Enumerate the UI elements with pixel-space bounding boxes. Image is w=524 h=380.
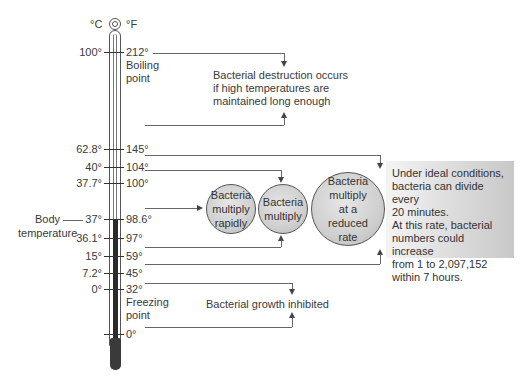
circle-text: Bacteria [263, 195, 303, 209]
arrow-down-icon [281, 61, 287, 67]
connector-line [145, 247, 281, 248]
arrow-down-icon [289, 289, 295, 295]
tick-0c [104, 289, 124, 290]
connector-line [145, 264, 380, 265]
connector-line [284, 117, 285, 125]
connector-line [281, 240, 282, 247]
fahrenheit-label: 0° [126, 328, 137, 341]
arrow-down-icon [278, 177, 284, 183]
circle-multiply-rapidly: Bacteria multiply rapidly [206, 184, 256, 234]
destruction-text: if high temperatures are [213, 82, 329, 95]
tick-0f [104, 334, 124, 335]
tick-7c [104, 273, 124, 274]
tick-37-7c [104, 183, 124, 184]
tick-15c [104, 256, 124, 257]
info-text: numbers could increase [392, 232, 508, 258]
info-text: within 7 hours. [392, 271, 508, 284]
info-text: bacteria can divide every [392, 180, 508, 206]
circle-text: rate [328, 230, 368, 244]
info-text: At this rate, bacterial [392, 219, 508, 232]
connector-line [145, 327, 292, 328]
circle-text: Bacteria [211, 188, 251, 202]
body-temp-connector [145, 208, 198, 209]
circle-text: multiply [211, 202, 251, 216]
connector-line [292, 317, 293, 327]
celsius-label: 15° [55, 250, 102, 263]
fahrenheit-label: 100° [126, 177, 149, 190]
connector-line [145, 283, 292, 284]
circle-multiply-reduced-rate: Bacteria multiply at a reduced rate [311, 172, 385, 246]
circle-multiply: Bacteria multiply [258, 184, 308, 234]
thermometer-bulb [110, 338, 121, 370]
info-box: Under ideal conditions, bacteria can div… [386, 161, 514, 258]
tick-62c [104, 149, 124, 150]
fahrenheit-label: 32° [126, 283, 143, 296]
info-text: 20 minutes. [392, 206, 508, 219]
connector-line [145, 155, 380, 156]
fahrenheit-label: 104° [126, 161, 149, 174]
tick-37c [104, 219, 124, 220]
circle-text: multiply [263, 209, 303, 223]
celsius-label: 40° [55, 161, 102, 174]
destruction-text: maintained long enough [213, 95, 330, 108]
tick-36c [104, 238, 124, 239]
freezing-point-label: point [126, 309, 150, 322]
celsius-label: 62.8° [55, 143, 102, 156]
arrow-right-icon [197, 205, 203, 211]
body-temperature-label: temperature [18, 227, 77, 240]
arrow-down-icon [377, 163, 383, 169]
connector-line [153, 53, 284, 54]
circle-text: reduced [328, 216, 368, 230]
freezing-point-label: Freezing [126, 296, 169, 309]
thermometer-top-ring-inner [112, 21, 118, 27]
fahrenheit-label: 212° [126, 46, 149, 59]
celsius-label: 0° [55, 283, 102, 296]
connector-line [145, 170, 281, 171]
celsius-label: 100° [55, 46, 102, 59]
circle-text: Bacteria [328, 174, 368, 188]
connector-line [380, 254, 381, 264]
circle-text: multiply [328, 188, 368, 202]
circle-text: at a [328, 202, 368, 216]
fahrenheit-unit: °F [126, 18, 137, 31]
celsius-label: 7.2° [55, 267, 102, 280]
fahrenheit-label: 98.6° [126, 213, 152, 226]
connector-line [145, 125, 284, 126]
fahrenheit-label: 59° [126, 250, 143, 263]
info-text: from 1 to 2,097,152 [392, 258, 508, 271]
body-temperature-leader [63, 220, 83, 221]
boiling-point-label: Boiling [126, 59, 159, 72]
celsius-label: 37.7° [55, 177, 102, 190]
info-text: Under ideal conditions, [392, 167, 508, 180]
boiling-point-label: point [126, 72, 150, 85]
circle-text: rapidly [211, 216, 251, 230]
destruction-text: Bacterial destruction occurs [213, 69, 348, 82]
celsius-unit: °C [90, 18, 102, 31]
fahrenheit-label: 45° [126, 267, 143, 280]
body-temperature-label: Body [35, 213, 60, 226]
fahrenheit-label: 97° [126, 232, 143, 245]
tick-100c [104, 52, 124, 53]
tick-40c [104, 167, 124, 168]
growth-inhibited-text: Bacterial growth inhibited [206, 298, 329, 311]
